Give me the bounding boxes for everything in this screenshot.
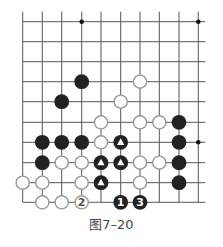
black-stone: 1 xyxy=(113,195,128,210)
white-stone xyxy=(153,156,166,169)
white-stone: 2 xyxy=(75,196,88,210)
white-stone xyxy=(16,176,29,189)
white-stone xyxy=(114,95,127,108)
black-stone xyxy=(94,155,109,170)
move-number-label: 2 xyxy=(78,196,86,209)
white-stone xyxy=(75,156,88,169)
white-stone xyxy=(133,156,146,169)
white-stone xyxy=(75,176,88,189)
white-stone xyxy=(36,176,49,189)
black-stone xyxy=(54,94,69,109)
black-stone xyxy=(172,155,187,170)
black-stone xyxy=(94,175,109,190)
white-stone xyxy=(133,116,146,129)
white-stone xyxy=(94,116,107,129)
white-stone xyxy=(55,196,68,209)
black-stone xyxy=(172,135,187,150)
black-stone xyxy=(172,175,187,190)
black-stone xyxy=(54,135,69,150)
board-grid-lines xyxy=(23,12,206,203)
white-stone xyxy=(153,116,166,129)
white-stone xyxy=(133,75,146,88)
move-number-label: 3 xyxy=(136,196,144,209)
white-stone xyxy=(36,196,49,209)
white-stone xyxy=(94,136,107,149)
black-stone xyxy=(74,74,89,89)
star-point xyxy=(196,140,201,145)
black-stone xyxy=(35,155,50,170)
star-point xyxy=(79,19,84,24)
black-stone: 3 xyxy=(133,195,148,210)
figure-caption: 图7–20 xyxy=(0,214,223,233)
go-board-diagram: 213 xyxy=(0,0,223,212)
black-stone xyxy=(74,135,89,150)
black-stone xyxy=(113,135,128,150)
black-stone xyxy=(172,115,187,130)
white-stone xyxy=(55,156,68,169)
star-point xyxy=(196,19,201,24)
black-stone xyxy=(113,155,128,170)
black-stone xyxy=(35,135,50,150)
move-number-label: 1 xyxy=(117,196,125,209)
white-stone xyxy=(133,176,146,189)
